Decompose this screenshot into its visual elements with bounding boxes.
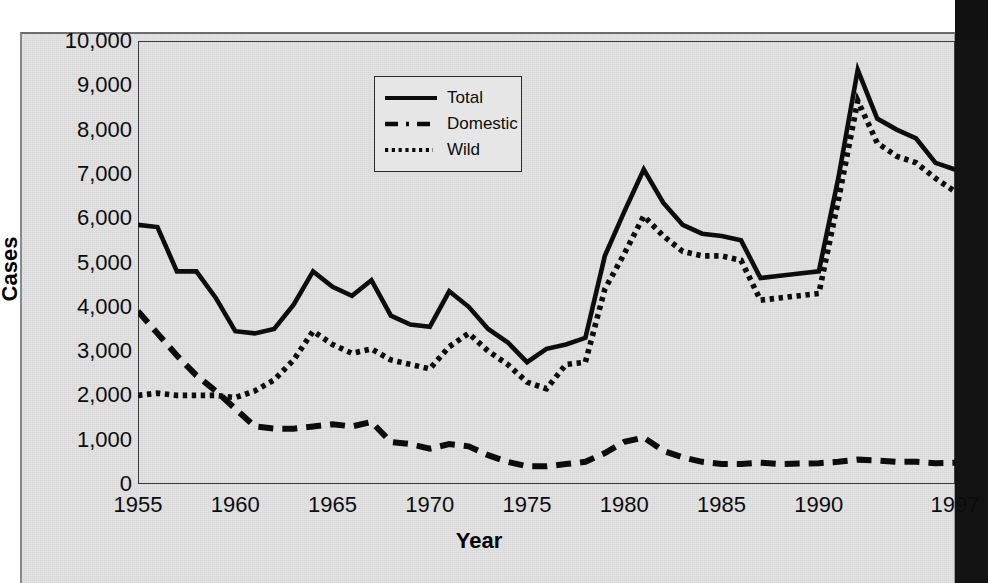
legend-label-domestic: Domestic bbox=[447, 114, 518, 134]
x-tick-label: 1965 bbox=[308, 492, 357, 518]
legend-label-wild: Wild bbox=[447, 140, 480, 160]
legend-key-dotted-icon bbox=[383, 143, 439, 157]
series-line-wild bbox=[138, 101, 955, 398]
x-tick-label: 1975 bbox=[503, 492, 552, 518]
x-axis-tick-labels: 195519601965197019751980198519901997 bbox=[0, 492, 958, 526]
legend-item-wild: Wild bbox=[383, 137, 480, 163]
figure-page: 01,0002,0003,0004,0005,0006,0007,0008,00… bbox=[0, 0, 988, 583]
y-tick-label: 8,000 bbox=[77, 117, 132, 143]
y-tick-label: 7,000 bbox=[77, 161, 132, 187]
y-tick-label: 2,000 bbox=[77, 382, 132, 408]
y-axis-title: Cases bbox=[0, 237, 23, 302]
chart-series-canvas bbox=[138, 41, 955, 484]
legend-item-total: Total bbox=[383, 85, 483, 111]
y-tick-label: 3,000 bbox=[77, 338, 132, 364]
y-tick-label: 9,000 bbox=[77, 72, 132, 98]
chart-legend: Total Domestic Wild bbox=[374, 76, 522, 172]
x-tick-label: 1990 bbox=[794, 492, 843, 518]
y-tick-label: 10,000 bbox=[65, 28, 132, 54]
page-corner-dark-block bbox=[955, 0, 988, 40]
x-tick-label: 1960 bbox=[211, 492, 260, 518]
x-tick-label: 1985 bbox=[697, 492, 746, 518]
y-tick-label: 5,000 bbox=[77, 250, 132, 276]
legend-label-total: Total bbox=[447, 88, 483, 108]
legend-key-solid-icon bbox=[383, 91, 439, 105]
y-tick-label: 6,000 bbox=[77, 205, 132, 231]
y-tick-label: 4,000 bbox=[77, 294, 132, 320]
legend-item-domestic: Domestic bbox=[383, 111, 518, 137]
legend-key-dashed-icon bbox=[383, 117, 439, 131]
x-tick-label: 1997 bbox=[931, 492, 980, 518]
x-axis-title: Year bbox=[0, 528, 958, 554]
x-tick-label: 1970 bbox=[405, 492, 454, 518]
x-tick-label: 1955 bbox=[114, 492, 163, 518]
y-tick-label: 1,000 bbox=[77, 427, 132, 453]
x-tick-label: 1980 bbox=[600, 492, 649, 518]
